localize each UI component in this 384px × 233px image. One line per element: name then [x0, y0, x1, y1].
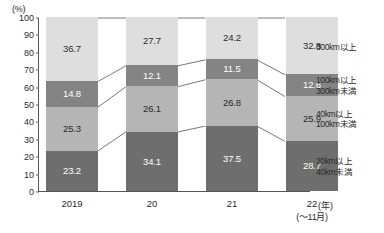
- legend-item-label-line2: 100km未満: [316, 120, 357, 131]
- y-axis-tick-label: 0: [5, 188, 39, 197]
- bar-segment: 36.7: [46, 17, 98, 81]
- y-axis-tick-label: 70: [5, 66, 39, 75]
- y-axis-tick-mark: [36, 174, 39, 175]
- bar-segment-value-label: 11.5: [223, 64, 240, 74]
- y-axis-tick-label: 100: [5, 14, 39, 23]
- y-axis-tick-label: 20: [5, 153, 39, 162]
- legend-item-label: 100km以上: [316, 75, 357, 86]
- bar-group: 23.225.314.836.7: [46, 18, 98, 191]
- connector-line: [98, 87, 126, 107]
- chart-legend: 300km以上100km以上300km未満40km以上100km未満20km以上…: [316, 18, 384, 192]
- x-axis-tick-label: 21: [227, 191, 238, 211]
- y-axis-tick-label: 90: [5, 31, 39, 40]
- y-axis-tick-mark: [36, 87, 39, 88]
- y-axis-tick-label: 40: [5, 118, 39, 127]
- stacked-bar-chart: (%) 100908070605040302010023.225.314.836…: [0, 0, 384, 233]
- connector-line: [98, 66, 126, 82]
- connector-line: [177, 126, 205, 132]
- y-axis-tick-mark: [36, 105, 39, 106]
- bar-segment-value-label: 37.5: [223, 154, 241, 164]
- connector-line: [177, 80, 205, 87]
- plot-area: 100908070605040302010023.225.314.836.720…: [38, 18, 310, 192]
- connector-line: [257, 60, 285, 75]
- connector-line: [257, 126, 285, 141]
- bar-segment: 26.8: [206, 79, 258, 126]
- bar-segment: 14.8: [46, 81, 98, 107]
- bar-segment: 27.7: [126, 17, 178, 65]
- bar-segment-value-label: 24.2: [223, 33, 241, 43]
- legend-item: 40km以上100km未満: [316, 109, 357, 130]
- legend-item-label: 40km以上: [316, 109, 357, 120]
- x-axis-tick-label: 20: [147, 191, 158, 211]
- y-axis-tick-mark: [36, 192, 39, 193]
- bar-segment-value-label: 23.2: [63, 166, 81, 176]
- y-axis-tick-label: 10: [5, 170, 39, 179]
- y-axis-tick-mark: [36, 139, 39, 140]
- legend-item: 300km以上: [316, 41, 357, 52]
- bar-segment: 25.3: [46, 107, 98, 151]
- bar-group: 37.526.811.524.2: [206, 18, 258, 191]
- legend-item-label: 20km以上: [316, 156, 352, 167]
- y-axis-tick-mark: [36, 157, 39, 158]
- y-axis-tick-label: 50: [5, 101, 39, 110]
- y-axis-tick-mark: [36, 18, 39, 19]
- y-axis-tick-label: 80: [5, 48, 39, 57]
- bar-segment-value-label: 26.1: [143, 104, 161, 114]
- y-axis-tick-label: 30: [5, 135, 39, 144]
- x-axis-unit-label: (年): [318, 199, 333, 212]
- bar-segment-value-label: 34.1: [143, 157, 161, 167]
- bar-segment: 24.2: [206, 17, 258, 59]
- y-axis-tick-mark: [36, 70, 39, 71]
- y-axis-tick-mark: [36, 122, 39, 123]
- legend-item-label-line2: 40km未満: [316, 167, 352, 178]
- legend-item: 20km以上40km未満: [316, 156, 352, 177]
- y-axis-tick-mark: [36, 35, 39, 36]
- bar-segment: 11.5: [206, 59, 258, 79]
- bar-segment-value-label: 26.8: [223, 98, 241, 108]
- bar-segment: 37.5: [206, 126, 258, 191]
- bar-group: 34.126.112.127.7: [126, 18, 178, 191]
- bar-segment: 23.2: [46, 151, 98, 191]
- legend-item-label-line2: 300km未満: [316, 86, 357, 97]
- legend-item: 100km以上300km未満: [316, 75, 357, 96]
- bar-segment: 26.1: [126, 86, 178, 131]
- bar-segment: 12.1: [126, 65, 178, 86]
- connector-line: [257, 80, 285, 97]
- y-axis-tick-label: 60: [5, 83, 39, 92]
- x-axis-tick-sublabel: (～11月): [296, 211, 328, 223]
- x-axis-tick-label: 2019: [61, 191, 82, 211]
- connector-line: [177, 60, 205, 66]
- bar-segment-value-label: 14.8: [63, 89, 81, 99]
- bar-segment: 34.1: [126, 132, 178, 191]
- legend-item-label: 300km以上: [316, 41, 357, 52]
- bar-segment-value-label: 27.7: [143, 36, 161, 46]
- bar-segment-value-label: 12.1: [143, 71, 161, 81]
- bar-segment-value-label: 25.3: [63, 124, 81, 134]
- bar-segment-value-label: 36.7: [63, 44, 81, 54]
- y-axis-tick-mark: [36, 52, 39, 53]
- connector-line: [98, 132, 126, 151]
